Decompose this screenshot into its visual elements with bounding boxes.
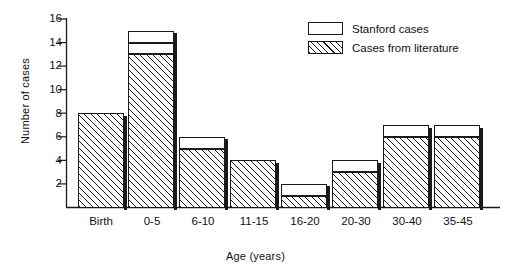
legend-item-cases-from-literature: Cases from literature — [308, 38, 508, 57]
bar-group-6-10 — [179, 137, 225, 208]
legend-item-stanford-cases: Stanford cases — [308, 19, 508, 38]
legend-swatch-white-icon — [308, 22, 343, 35]
bar-shadow — [174, 33, 177, 210]
bar-group-35-45 — [434, 125, 480, 208]
legend-label-stanford-cases: Stanford cases — [352, 23, 429, 35]
bar-shadow — [480, 128, 483, 211]
bar-segment-literature — [128, 54, 174, 207]
bar-shadow — [429, 128, 432, 211]
bar-segment-literature — [179, 149, 225, 208]
bar-group-birth — [78, 113, 124, 207]
bar-group-20-30 — [332, 160, 378, 207]
bar-shadow — [378, 163, 381, 210]
bar-group-11-15 — [230, 160, 276, 207]
x-tick-label-35-45: 35-45 — [428, 216, 488, 228]
bar-segment-literature — [383, 137, 429, 208]
bar-segment-literature — [230, 160, 276, 207]
x-axis-title: Age (years) — [0, 250, 511, 262]
bar-group-0-5 — [128, 31, 174, 208]
bar-segment-literature — [332, 172, 378, 207]
bar-segment-stanford — [179, 137, 225, 149]
bar-shadow — [225, 139, 228, 210]
bar-segment-stanford-a — [128, 43, 174, 55]
bar-group-30-40 — [383, 125, 429, 208]
bar-segment-stanford-b — [128, 31, 174, 43]
bar-segment-literature — [434, 137, 480, 208]
bar-segment-stanford — [332, 160, 378, 172]
chart-legend: Stanford cases Cases from literature — [308, 19, 508, 57]
bar-segment-stanford — [434, 125, 480, 137]
bar-segment-stanford — [281, 184, 327, 196]
bar-segment-literature — [78, 113, 124, 207]
bar-group-16-20 — [281, 184, 327, 208]
bar-chart-figure: Number of cases 16 14 12 10 8 6 4 2 — [0, 0, 511, 277]
bar-segment-stanford — [383, 125, 429, 137]
bar-segment-literature — [281, 196, 327, 208]
legend-label-cases-from-literature: Cases from literature — [352, 42, 459, 54]
bar-shadow — [124, 116, 127, 210]
bar-shadow — [327, 186, 330, 210]
legend-swatch-hatched-icon — [308, 41, 343, 54]
bar-shadow — [276, 163, 279, 210]
